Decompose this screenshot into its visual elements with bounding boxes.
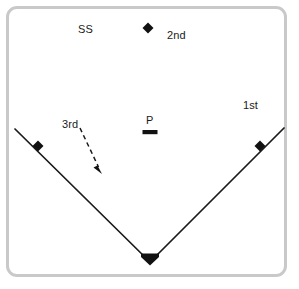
left-foul-line	[15, 129, 150, 262]
third-base-marker	[33, 141, 44, 152]
first-base-marker	[255, 141, 266, 152]
home-plate-marker	[141, 254, 159, 266]
baseball-infield-diagram: SS 2nd 1st P 3rd	[0, 0, 299, 289]
third-base-runner-arrowhead	[94, 166, 103, 175]
right-foul-line	[150, 128, 284, 262]
third-base-label: 3rd	[62, 119, 78, 130]
pitchers-rubber	[143, 130, 158, 134]
third-base-runner-arrow-shaft	[80, 128, 99, 167]
second-base-marker	[143, 23, 154, 34]
second-base-label: 2nd	[167, 30, 186, 41]
pitcher-label: P	[146, 115, 153, 126]
first-base-label: 1st	[243, 100, 258, 111]
shortstop-label: SS	[78, 24, 93, 35]
field-graphics	[0, 0, 299, 289]
